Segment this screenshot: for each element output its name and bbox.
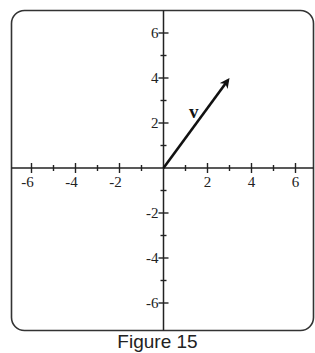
y-tick-label: 6 bbox=[151, 25, 159, 41]
figure-caption: Figure 15 bbox=[0, 331, 315, 353]
vector-v-arrow bbox=[164, 80, 228, 168]
x-tick-label: 4 bbox=[248, 174, 256, 190]
plot-frame bbox=[12, 11, 314, 331]
y-tick-label: -6 bbox=[146, 295, 159, 311]
x-tick-label: -2 bbox=[109, 174, 122, 190]
x-tick-label: 6 bbox=[292, 174, 300, 190]
x-tick-label: -6 bbox=[21, 174, 34, 190]
y-tick-label: -2 bbox=[146, 205, 159, 221]
vector-v-label: v bbox=[189, 101, 199, 122]
x-tick-label: 2 bbox=[204, 174, 212, 190]
x-tick-label: -4 bbox=[65, 174, 78, 190]
y-tick-label: 2 bbox=[151, 115, 159, 131]
y-tick-label: 4 bbox=[151, 70, 159, 86]
y-tick-label: -4 bbox=[146, 250, 159, 266]
